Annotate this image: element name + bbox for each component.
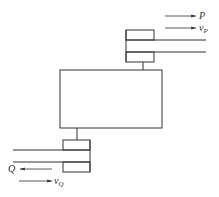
- main-body-box: [60, 70, 162, 128]
- bottom-slider-assembly: Q vQ: [8, 128, 90, 188]
- svg-text:vQ: vQ: [54, 175, 64, 188]
- velocity-q-subscript: Q: [58, 180, 63, 188]
- svg-text:vP: vP: [199, 22, 208, 35]
- force-p-label: P: [198, 10, 205, 21]
- force-q-label: Q: [8, 163, 16, 174]
- velocity-p-subscript: P: [202, 27, 208, 35]
- mechanism-diagram: P vP Q vQ: [0, 0, 219, 197]
- top-slider-assembly: P vP: [126, 10, 208, 70]
